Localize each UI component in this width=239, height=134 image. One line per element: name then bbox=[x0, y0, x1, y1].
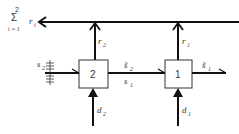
stage-block-1: 1 bbox=[165, 60, 192, 88]
stage-link: s̃ 2 s 1 bbox=[108, 60, 165, 88]
svg-text:2: 2 bbox=[103, 42, 106, 48]
svg-text:2: 2 bbox=[130, 66, 133, 72]
return-1-arrow: r 1 bbox=[173, 23, 190, 60]
svg-text:d: d bbox=[97, 105, 102, 115]
svg-text:1: 1 bbox=[208, 66, 211, 72]
svg-text:r: r bbox=[29, 16, 33, 26]
stage-block-2: 2 bbox=[79, 60, 108, 88]
svg-text:s: s bbox=[37, 59, 41, 69]
final-output-s1: s̃ 1 bbox=[192, 60, 226, 73]
svg-text:s̃: s̃ bbox=[124, 60, 128, 70]
svg-text:1: 1 bbox=[187, 42, 190, 48]
input-state-s2: s 2 bbox=[37, 59, 79, 85]
svg-text:d: d bbox=[182, 105, 187, 115]
svg-text:i = 1: i = 1 bbox=[8, 26, 20, 32]
return-2-arrow: r 2 bbox=[90, 23, 106, 60]
decision-1-arrow: d 1 bbox=[173, 88, 191, 126]
svg-text:1: 1 bbox=[175, 69, 181, 80]
svg-text:Σ: Σ bbox=[11, 12, 17, 23]
serial-stage-diagram: 2 Σ i = 1 r i r 2 r 1 2 1 bbox=[0, 0, 239, 134]
svg-text:1: 1 bbox=[188, 111, 191, 117]
sum-of-returns-label: 2 Σ i = 1 r i bbox=[8, 6, 36, 32]
svg-text:1: 1 bbox=[130, 82, 133, 88]
svg-text:s̃: s̃ bbox=[202, 60, 206, 70]
decision-2-arrow: d 2 bbox=[88, 88, 106, 126]
svg-text:2: 2 bbox=[90, 69, 96, 80]
svg-text:s: s bbox=[124, 76, 128, 86]
svg-text:2: 2 bbox=[42, 65, 45, 71]
svg-text:r: r bbox=[182, 36, 186, 46]
svg-text:r: r bbox=[98, 36, 102, 46]
svg-text:i: i bbox=[34, 22, 36, 28]
total-return-line bbox=[39, 17, 239, 27]
svg-text:2: 2 bbox=[103, 111, 106, 117]
